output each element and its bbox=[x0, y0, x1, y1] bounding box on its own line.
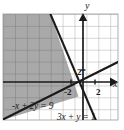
x-axis-tick-label-positive-2: 2 bbox=[96, 88, 101, 97]
x-axis-label: x bbox=[113, 79, 117, 89]
x-axis-tick-label-negative-2: -2 bbox=[64, 88, 72, 97]
equation-label-line-2: 3x + y = 1 bbox=[57, 113, 95, 123]
graph-figure: -x + 2y = 9 3x + y = 1 x y -2 2 2 bbox=[0, 0, 124, 130]
y-axis-tick-label-positive-2: 2 bbox=[77, 68, 82, 77]
y-axis-label: y bbox=[85, 1, 89, 11]
equation-label-line-1: -x + 2y = 9 bbox=[12, 102, 53, 112]
